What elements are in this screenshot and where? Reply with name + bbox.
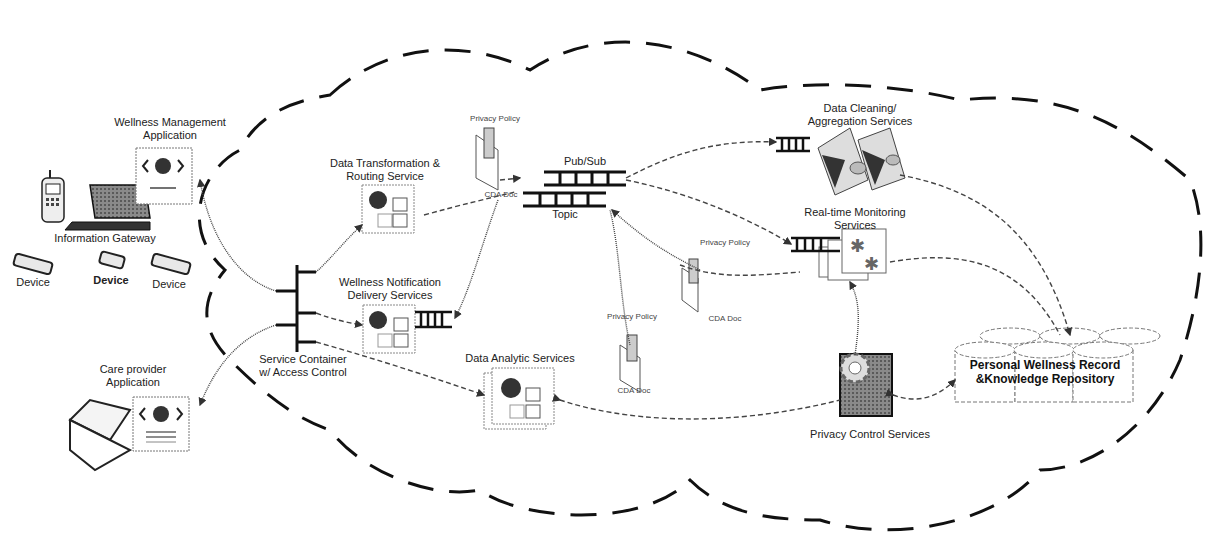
data-analytic-label: Data Analytic Services — [455, 352, 585, 365]
care-provider-label-line2: Application — [88, 376, 178, 389]
device-icons — [13, 251, 191, 275]
data-cleaning-label-line2: Aggregation Services — [790, 115, 930, 128]
pubsub-label: Pub/Sub — [560, 155, 610, 168]
repository-label-line2: &Knowledge Repository — [950, 372, 1140, 386]
cda-doc-label-2: CDA Doc — [700, 314, 750, 324]
care-provider-label: Care provider Application — [88, 363, 178, 389]
architecture-diagram: ✱ ✱ — [0, 0, 1229, 552]
wellness-app-label-line2: Application — [108, 129, 232, 142]
cda-doc-label-3: CDA Doc — [609, 386, 659, 396]
repository-label-line1: Personal Wellness Record — [950, 358, 1140, 372]
wellness-app-window — [136, 148, 192, 204]
privacy-control-icon — [840, 354, 892, 416]
realtime-monitoring-label-line2: Services — [790, 219, 920, 232]
cda-doc-label-1: CDA Doc — [476, 190, 526, 200]
realtime-monitoring-label: Real-time Monitoring Services — [790, 206, 920, 232]
data-transformation-label-line2: Routing Service — [320, 170, 450, 183]
data-cleaning-label: Data Cleaning/ Aggregation Services — [790, 102, 930, 128]
data-transformation-label: Data Transformation & Routing Service — [320, 157, 450, 183]
data-transformation-label-line1: Data Transformation & — [320, 157, 450, 170]
wellness-app-label: Wellness Management Application — [108, 116, 232, 142]
data-analytic-icon — [484, 368, 554, 429]
device-label-3: Device — [146, 278, 192, 291]
privacy-control-label: Privacy Control Services — [800, 428, 940, 441]
topic-label: Topic — [545, 208, 585, 221]
data-cleaning-icon — [776, 128, 905, 195]
device-label-1: Device — [10, 276, 56, 289]
realtime-monitoring-label-line1: Real-time Monitoring — [790, 206, 920, 219]
information-gateway-label: Information Gateway — [50, 232, 160, 245]
svg-text:✱: ✱ — [850, 236, 865, 256]
data-cleaning-label-line1: Data Cleaning/ — [790, 102, 930, 115]
data-transformation-icon — [362, 185, 414, 233]
pubsub-topic-icon — [523, 172, 626, 206]
service-container-label-line1: Service Container — [248, 353, 358, 366]
care-provider-app-window — [133, 397, 189, 451]
wellness-notification-label-line1: Wellness Notification — [330, 276, 450, 289]
service-container-label: Service Container w/ Access Control — [248, 353, 358, 379]
mobile-phone-icon — [42, 170, 64, 222]
privacy-policy-label-2: Privacy Policy — [690, 238, 760, 248]
service-container-bus — [276, 265, 316, 352]
privacy-policy-label-1: Privacy Policy — [460, 114, 530, 124]
wellness-notification-label: Wellness Notification Delivery Services — [330, 276, 450, 302]
care-provider-laptop-icon — [70, 400, 130, 470]
svg-text:✱: ✱ — [864, 254, 879, 274]
repository-label: Personal Wellness Record &Knowledge Repo… — [950, 358, 1140, 386]
wellness-notification-icon — [363, 305, 452, 353]
device-label-2: Device — [88, 274, 134, 287]
realtime-monitoring-icon: ✱ ✱ — [791, 229, 886, 280]
care-provider-label-line1: Care provider — [88, 363, 178, 376]
privacy-policy-label-3: Privacy Policy — [597, 312, 667, 322]
service-container-label-line2: w/ Access Control — [248, 366, 358, 379]
wellness-notification-label-line2: Delivery Services — [330, 289, 450, 302]
wellness-app-label-line1: Wellness Management — [108, 116, 232, 129]
